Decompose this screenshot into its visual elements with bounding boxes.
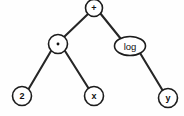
- expression-tree-figure: +log2xy: [0, 0, 184, 116]
- tree-canvas: +log2xy: [0, 0, 184, 116]
- tree-node-two[interactable]: 2: [13, 87, 32, 106]
- node-label-y: y: [165, 93, 170, 103]
- node-label-x: x: [91, 91, 96, 101]
- node-label-two: 2: [19, 91, 24, 101]
- tree-edge-log-to-y: [140, 53, 163, 91]
- tree-edge-times-to-x: [65, 51, 89, 89]
- tree-edge-times-to-two: [28, 51, 51, 90]
- tree-edge-root-to-log: [100, 13, 121, 39]
- node-label-log: log: [124, 41, 137, 52]
- node-label-root: +: [91, 3, 96, 13]
- tree-node-root[interactable]: +: [86, 0, 103, 17]
- tree-node-x[interactable]: x: [85, 87, 104, 106]
- tree-edge-root-to-times: [64, 14, 88, 37]
- tree-node-y[interactable]: y: [159, 89, 178, 108]
- tree-node-times[interactable]: [49, 35, 68, 54]
- tree-node-log[interactable]: log: [115, 37, 146, 56]
- multiplication-dot-icon: [57, 43, 60, 46]
- node-layer: +log2xy: [13, 0, 178, 108]
